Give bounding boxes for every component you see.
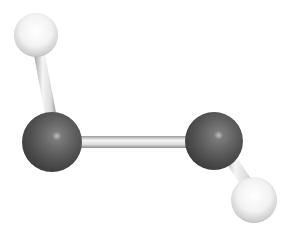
molecule-diagram — [0, 0, 289, 229]
bond-o1-o2 — [70, 136, 200, 148]
hydrogen-atom-bottom-right — [231, 177, 277, 223]
oxygen-atom-left — [22, 112, 82, 172]
hydrogen-atom-top-left — [14, 13, 58, 57]
oxygen-atom-right — [185, 112, 243, 170]
bond-h1-o1 — [33, 49, 57, 120]
